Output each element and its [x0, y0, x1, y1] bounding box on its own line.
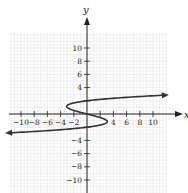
y-tick-label: 4: [77, 83, 82, 92]
x-tick-label: −2: [68, 118, 79, 127]
y-axis-arrow-icon: [84, 17, 90, 25]
x-tick-label: 4: [111, 118, 116, 127]
x-axis-label: x: [184, 109, 188, 120]
x-tick-label: 8: [137, 118, 142, 127]
x-tick-label: −8: [29, 118, 40, 127]
y-tick-label: −4: [71, 136, 82, 145]
x-tick-label: −4: [55, 118, 66, 127]
y-tick-label: 8: [77, 57, 82, 66]
y-axis-label: y: [82, 4, 89, 15]
x-tick-label: −6: [42, 118, 53, 127]
curve-arrow-icon: [5, 130, 12, 136]
y-tick-label: 10: [72, 44, 82, 53]
x-tick-label: 10: [148, 118, 158, 127]
y-tick-label: −6: [71, 149, 82, 158]
y-tick-label: 6: [77, 70, 82, 79]
y-tick-label: −8: [71, 162, 82, 171]
x-axis-arrow-icon: [175, 111, 183, 117]
y-tick-label: −10: [66, 176, 82, 185]
x-tick-label: 6: [124, 118, 129, 127]
chart: −10−8−6−4−24681010864−4−6−8−10 x y: [0, 0, 188, 193]
grid: [9, 33, 166, 193]
x-tick-label: −10: [13, 118, 29, 127]
